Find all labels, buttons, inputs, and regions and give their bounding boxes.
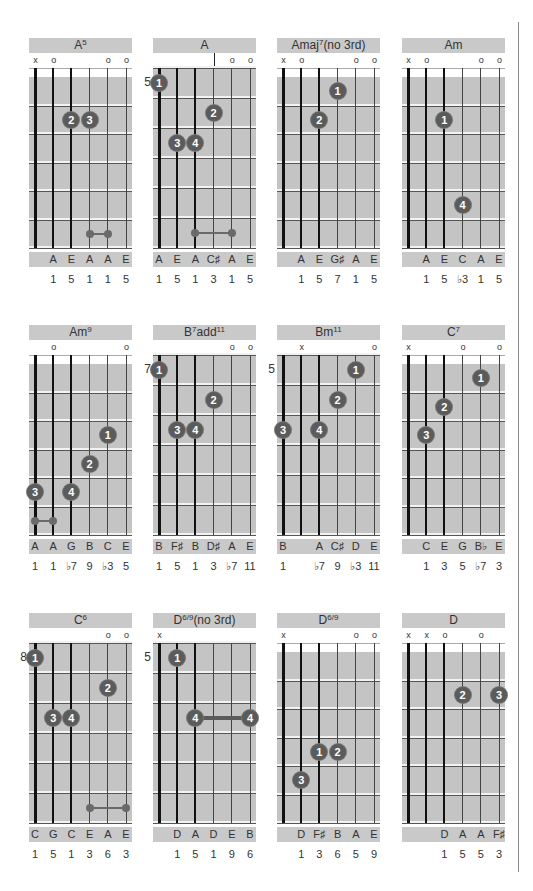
finger-dot: 2 bbox=[455, 687, 471, 703]
note-name: B♭ bbox=[472, 539, 490, 554]
finger-dot: 1 bbox=[348, 362, 364, 378]
fret-line bbox=[277, 415, 380, 416]
chord-extension: 11 bbox=[333, 325, 341, 334]
fret-line bbox=[402, 507, 505, 508]
guitar-string bbox=[89, 643, 91, 823]
optional-note-dot bbox=[86, 804, 94, 812]
guitar-string bbox=[70, 643, 72, 823]
fret-line bbox=[277, 355, 380, 356]
guitar-string bbox=[300, 355, 303, 535]
guitar-string bbox=[425, 643, 428, 823]
chord-root: D bbox=[174, 613, 183, 627]
fret-line bbox=[153, 535, 256, 536]
note-name: A bbox=[81, 252, 99, 267]
note-names-row: AEAC♯AE bbox=[153, 252, 256, 267]
guitar-string bbox=[158, 355, 161, 535]
fret-line bbox=[402, 478, 505, 479]
open-string-icon: o bbox=[227, 342, 237, 352]
chord-title: D bbox=[402, 613, 505, 628]
note-name: E bbox=[117, 827, 135, 842]
muted-string-icon: x bbox=[297, 342, 307, 352]
fret-line bbox=[402, 535, 505, 536]
chord-title: D6/9 bbox=[277, 613, 380, 628]
fret-line bbox=[153, 763, 256, 764]
fret-line bbox=[153, 733, 256, 734]
chord-suffix: add bbox=[197, 325, 217, 339]
string-markers: xxoo bbox=[402, 630, 505, 640]
muted-string-icon: x bbox=[279, 55, 289, 65]
intervals-row: 15115 bbox=[29, 272, 132, 286]
intervals-row: 1553 bbox=[402, 847, 505, 861]
fret-line bbox=[153, 355, 256, 356]
guitar-string bbox=[425, 68, 428, 248]
fret-line bbox=[153, 68, 256, 69]
fret-line bbox=[153, 445, 256, 446]
guitar-string bbox=[107, 355, 108, 535]
note-name: A bbox=[347, 827, 365, 842]
interval: 1 bbox=[417, 559, 435, 573]
guitar-string bbox=[126, 68, 127, 248]
note-name: B bbox=[186, 539, 204, 554]
interval: ♭3 bbox=[347, 559, 365, 573]
guitar-string bbox=[231, 68, 232, 248]
guitar-string bbox=[194, 643, 196, 823]
note-name: D bbox=[205, 827, 223, 842]
note-name: E bbox=[435, 252, 453, 267]
guitar-string bbox=[407, 355, 410, 535]
finger-dot: 2 bbox=[436, 399, 452, 415]
open-string-icon: o bbox=[227, 55, 237, 65]
fret-line bbox=[402, 795, 505, 796]
guitar-string bbox=[89, 355, 91, 535]
fret-line bbox=[29, 733, 132, 734]
note-name: B bbox=[81, 539, 99, 554]
open-string-icon: o bbox=[422, 55, 432, 65]
open-string-icon: o bbox=[351, 630, 361, 640]
fret-position-label: 5 bbox=[265, 362, 275, 376]
interval: 5 bbox=[490, 272, 508, 286]
guitar-string bbox=[337, 355, 339, 535]
fret-line bbox=[29, 421, 132, 422]
interval: 5 bbox=[117, 559, 135, 573]
guitar-string bbox=[300, 643, 303, 823]
open-string-icon: o bbox=[370, 630, 380, 640]
page-divider bbox=[518, 22, 519, 872]
guitar-string bbox=[176, 355, 179, 535]
note-name: F♯ bbox=[168, 539, 186, 554]
note-name: G bbox=[454, 539, 472, 554]
finger-dot: 3 bbox=[169, 135, 185, 151]
interval: 3 bbox=[81, 847, 99, 861]
fret-line bbox=[277, 106, 380, 107]
guitar-string bbox=[52, 355, 55, 535]
finger-dot: 2 bbox=[330, 744, 346, 760]
interval: 6 bbox=[241, 847, 259, 861]
note-name: A bbox=[417, 252, 435, 267]
open-string-icon: o bbox=[49, 55, 59, 65]
chord-title: D6/9(no 3rd) bbox=[153, 613, 256, 628]
chord-title: A bbox=[153, 38, 256, 53]
finger-dot: 3 bbox=[45, 710, 61, 726]
guitar-string bbox=[213, 643, 215, 823]
interval: 6 bbox=[329, 847, 347, 861]
guitar-string bbox=[158, 68, 161, 248]
guitar-string bbox=[462, 68, 464, 248]
interval: 9 bbox=[223, 847, 241, 861]
note-names-row: AEAAE bbox=[29, 252, 132, 267]
note-name: G bbox=[62, 539, 80, 554]
guitar-string bbox=[34, 355, 37, 535]
interval: 5 bbox=[186, 847, 204, 861]
string-markers: xooo bbox=[277, 55, 380, 65]
fret-line bbox=[277, 795, 380, 796]
note-name: A bbox=[99, 252, 117, 267]
interval: ♭3 bbox=[99, 559, 117, 573]
fretboard: 123 bbox=[402, 355, 505, 535]
guitar-string bbox=[282, 68, 285, 248]
note-names-row: BAC♯DE bbox=[277, 539, 380, 554]
finger-dot: 4 bbox=[63, 710, 79, 726]
chord-root: C bbox=[74, 613, 83, 627]
guitar-string bbox=[355, 68, 356, 248]
note-name: A bbox=[150, 252, 168, 267]
guitar-string bbox=[194, 68, 196, 248]
guitar-string bbox=[300, 68, 303, 248]
finger-dot: 1 bbox=[100, 427, 116, 443]
note-names-row: AECAE bbox=[402, 252, 505, 267]
